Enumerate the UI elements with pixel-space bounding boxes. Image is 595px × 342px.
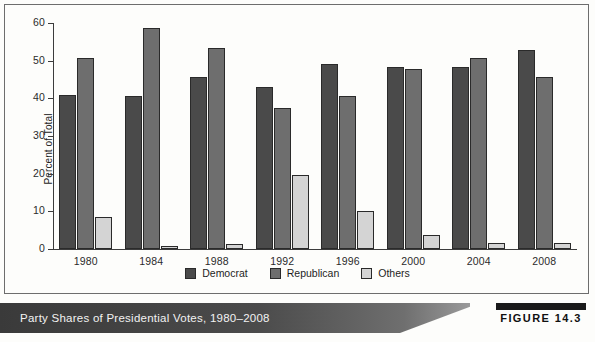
bar-republican-1988 [208,48,225,249]
legend-swatch-democrat [185,268,196,279]
x-tick-label: 1980 [53,255,119,267]
figure-container: Percent of Total 0102030405060 198019841… [0,0,595,342]
chart-panel: Percent of Total 0102030405060 198019841… [4,4,589,294]
y-tick-label: 20 [33,167,45,179]
caption-banner: Party Shares of Presidential Votes, 1980… [0,303,470,333]
legend-label: Democrat [202,267,248,279]
chart-legend: DemocratRepublicanOthers [5,267,590,279]
y-tick-label: 40 [33,91,45,103]
y-tick-label: 60 [33,16,45,28]
x-tick-label: 1988 [184,255,250,267]
bar-democrat-2004 [452,67,469,249]
bar-group: 2004 [446,23,512,249]
figure-number-rule [496,303,586,310]
plot-area: 0102030405060 19801984198819921996200020… [53,23,577,250]
bar-group: 2008 [512,23,578,249]
figure-number: FIGURE 14.3 [493,303,589,324]
x-tick-label: 2000 [381,255,447,267]
bar-democrat-1980 [59,95,76,249]
x-tick-label: 1996 [315,255,381,267]
bar-republican-2008 [536,77,553,249]
bar-others-1984 [161,246,178,249]
legend-item-democrat: Democrat [185,267,248,279]
bar-group: 2000 [381,23,447,249]
legend-item-others: Others [361,267,410,279]
figure-number-label: FIGURE 14.3 [493,312,589,324]
bar-democrat-2000 [387,67,404,249]
y-tick-label: 50 [33,54,45,66]
bar-others-1988 [226,244,243,249]
legend-item-republican: Republican [270,267,340,279]
legend-label: Others [378,267,410,279]
x-tick-label: 2008 [512,255,578,267]
y-tick-label: 30 [33,129,45,141]
bar-group: 1988 [184,23,250,249]
x-tick-label: 1984 [119,255,185,267]
x-axis-line [53,249,577,250]
y-tick-label: 10 [33,204,45,216]
bar-democrat-1988 [190,77,207,249]
bar-republican-1984 [143,28,160,249]
bar-republican-2000 [405,69,422,249]
legend-label: Republican [287,267,340,279]
x-tick-label: 2004 [446,255,512,267]
bar-democrat-2008 [518,50,535,249]
bar-others-1992 [292,175,309,249]
bar-group: 1980 [53,23,119,249]
bar-republican-1980 [77,58,94,249]
bar-group: 1992 [250,23,316,249]
bar-group: 1984 [119,23,185,249]
bar-others-1996 [357,211,374,249]
bar-republican-1992 [274,108,291,249]
legend-swatch-republican [270,268,281,279]
y-tick-label: 0 [39,242,45,254]
bar-democrat-1992 [256,87,273,249]
y-tick-mark [48,249,53,250]
x-tick-label: 1992 [250,255,316,267]
bar-group: 1996 [315,23,381,249]
figure-caption: Party Shares of Presidential Votes, 1980… [20,312,270,324]
legend-swatch-others [361,268,372,279]
bar-republican-1996 [339,96,356,249]
bar-others-2008 [554,243,571,249]
bar-others-2000 [423,235,440,249]
bar-republican-2004 [470,58,487,249]
bar-others-1980 [95,217,112,249]
bar-democrat-1984 [125,96,142,249]
bar-democrat-1996 [321,64,338,249]
bar-others-2004 [488,243,505,249]
